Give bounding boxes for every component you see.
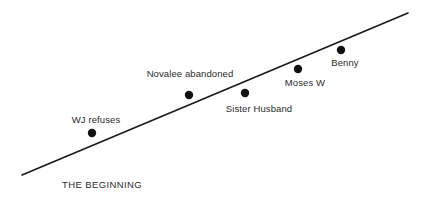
event-label-novalee-abandoned: Novalee abandoned <box>147 68 234 79</box>
stage-label-beginning: THE BEGINNING <box>62 179 142 190</box>
plot-diagram-canvas: WJ refuses Novalee abandoned Sister Husb… <box>0 0 434 205</box>
event-label-sister-husband: Sister Husband <box>226 103 292 114</box>
event-dot-benny[interactable] <box>337 46 345 54</box>
event-dot-wj-refuses[interactable] <box>88 129 96 137</box>
event-label-wj-refuses: WJ refuses <box>72 114 121 125</box>
event-label-moses-w: Moses W <box>285 77 325 88</box>
event-dot-novalee-abandoned[interactable] <box>185 91 193 99</box>
event-dot-sister-husband[interactable] <box>241 89 249 97</box>
rising-action-line <box>22 13 408 175</box>
event-label-benny: Benny <box>331 57 358 68</box>
event-dot-moses-w[interactable] <box>294 65 302 73</box>
plot-line-graphic <box>0 0 434 205</box>
